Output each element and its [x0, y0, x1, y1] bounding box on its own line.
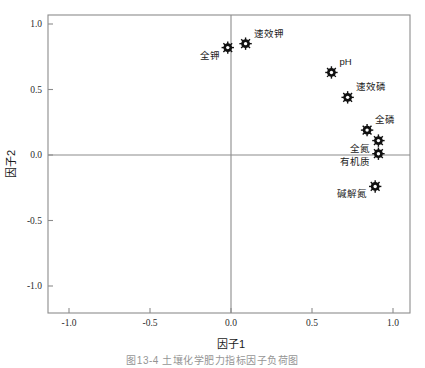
y-axis-title: 因子2 — [5, 150, 17, 178]
data-point-marker — [325, 66, 337, 78]
data-point-label: 全钾 — [200, 50, 220, 61]
factor-loading-scatter-plot: -1.0-0.50.00.51.0 -1.0-0.50.00.51.0 全钾速效… — [0, 0, 425, 368]
y-tick-label: 0.5 — [30, 85, 42, 95]
data-point-marker — [222, 41, 234, 53]
figure-container: -1.0-0.50.00.51.0 -1.0-0.50.00.51.0 全钾速效… — [0, 0, 425, 368]
x-axis-title: 因子1 — [217, 338, 245, 350]
data-point-label: 碱解氮 — [337, 188, 367, 199]
data-point-marker — [369, 180, 381, 192]
y-tick-label: -1.0 — [27, 281, 42, 291]
data-point-label: 全氮 — [350, 143, 370, 154]
x-tick-label: -0.5 — [142, 318, 157, 328]
x-tick-label: 1.0 — [387, 318, 399, 328]
data-point-label: 速效钾 — [254, 28, 284, 39]
data-point-label: 速效磷 — [356, 81, 386, 92]
data-point-label: 有机质 — [340, 156, 370, 167]
data-point-marker — [372, 134, 384, 146]
data-point-label: pH — [339, 56, 351, 67]
data-point-label: 全磷 — [375, 114, 395, 125]
y-tick-label: -0.5 — [27, 216, 42, 226]
x-tick-label: -1.0 — [61, 318, 76, 328]
data-point-marker — [239, 37, 251, 49]
y-tick-label: 1.0 — [30, 19, 42, 29]
data-point-marker — [341, 91, 353, 103]
x-tick-label: 0.0 — [225, 318, 237, 328]
data-point-marker — [372, 147, 384, 159]
y-tick-label: 0.0 — [30, 150, 42, 160]
figure-caption: 图13-4 土壤化学肥力指标因子负荷图 — [0, 352, 425, 368]
data-point-marker — [361, 124, 373, 136]
x-tick-label: 0.5 — [306, 318, 318, 328]
